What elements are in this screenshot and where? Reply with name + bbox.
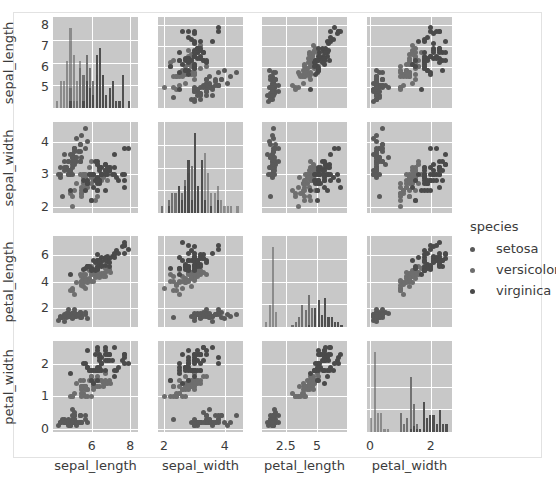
- scatter-point: [91, 381, 96, 386]
- scatter-point: [316, 172, 321, 177]
- scatter-point: [374, 93, 379, 98]
- scatter-point: [83, 188, 88, 193]
- gridline-horizontal: [158, 429, 243, 430]
- scatter-point: [413, 77, 418, 82]
- x-tick-label-petal_width: 2: [411, 438, 451, 453]
- histogram-bar: [275, 312, 277, 327]
- scatter-point: [437, 172, 442, 177]
- scatter-point: [328, 178, 333, 183]
- histogram-bar: [383, 429, 385, 432]
- histogram-bar: [340, 325, 342, 327]
- x-tick-label-petal_length: 5: [297, 438, 337, 453]
- scatter-point: [95, 188, 100, 193]
- scatter-point: [168, 266, 173, 271]
- panel-sepal_length-vs-petal_width: [367, 17, 452, 108]
- gridline-horizontal: [53, 207, 138, 208]
- scatter-point: [268, 194, 273, 199]
- scatter-point: [270, 162, 275, 167]
- histogram-bar: [265, 322, 267, 327]
- scatter-point: [180, 352, 185, 357]
- scatter-point: [60, 194, 65, 199]
- histogram-bar: [314, 308, 316, 327]
- scatter-point: [443, 162, 448, 167]
- scatter-point: [66, 172, 71, 177]
- scatter-point: [332, 25, 337, 30]
- histogram-bar: [191, 200, 193, 213]
- histogram-bar: [181, 200, 183, 213]
- gridline-horizontal: [367, 364, 452, 365]
- scatter-point: [422, 172, 427, 177]
- scatter-point: [177, 365, 182, 370]
- scatter-point: [271, 79, 276, 84]
- scatter-point: [306, 60, 311, 65]
- scatter-point: [204, 374, 209, 379]
- scatter-point: [270, 93, 275, 98]
- scatter-point: [416, 39, 421, 44]
- histogram-bar: [374, 352, 376, 432]
- scatter-point: [186, 251, 191, 256]
- histogram-bar: [400, 413, 402, 432]
- scatter-point: [186, 258, 191, 263]
- histogram-bar: [334, 322, 336, 327]
- scatter-point: [425, 35, 430, 40]
- scatter-point: [443, 39, 448, 44]
- gridline-vertical: [130, 122, 131, 213]
- scatter-point: [204, 352, 209, 357]
- scatter-point: [74, 136, 79, 141]
- scatter-point: [62, 152, 67, 157]
- histogram-bar: [324, 298, 326, 327]
- gridline-horizontal: [53, 429, 138, 430]
- scatter-point: [374, 79, 379, 84]
- scatter-point: [332, 146, 337, 151]
- scatter-point: [437, 254, 442, 259]
- scatter-point: [315, 188, 320, 193]
- histogram-bar: [445, 424, 447, 432]
- legend-marker-icon: [470, 289, 475, 294]
- scatter-point: [326, 352, 331, 357]
- scatter-point: [210, 345, 215, 350]
- scatter-point: [93, 352, 98, 357]
- scatter-point: [85, 348, 90, 353]
- scatter-point: [428, 247, 433, 252]
- scatter-point: [62, 314, 67, 319]
- x-tick-label-sepal_width: 4: [205, 438, 245, 453]
- scatter-point: [380, 83, 385, 88]
- pairplot-figure: 567823424601268242.5502 sepal_lengthsepa…: [0, 0, 556, 480]
- histogram-bar: [109, 88, 111, 108]
- scatter-point: [192, 352, 197, 357]
- scatter-point: [70, 162, 75, 167]
- scatter-point: [410, 258, 415, 263]
- scatter-point: [374, 162, 379, 167]
- scatter-point: [95, 194, 100, 199]
- histogram-bar: [204, 200, 206, 213]
- scatter-point: [210, 39, 215, 44]
- scatter-point: [374, 133, 379, 138]
- scatter-point: [122, 172, 127, 177]
- scatter-point: [386, 155, 391, 160]
- scatter-point: [377, 155, 382, 160]
- gridline-horizontal: [367, 207, 452, 208]
- scatter-point: [177, 292, 182, 297]
- legend-label: versicolor: [496, 262, 556, 277]
- scatter-point: [112, 172, 117, 177]
- scatter-point: [219, 77, 224, 82]
- scatter-point: [70, 407, 75, 412]
- histogram-bar: [73, 55, 75, 108]
- histogram-bar: [419, 429, 421, 432]
- scatter-point: [321, 368, 326, 373]
- panel-petal_width-vs-petal_length: [262, 341, 347, 432]
- scatter-point: [401, 292, 406, 297]
- scatter-point: [171, 95, 176, 100]
- scatter-point: [222, 68, 227, 73]
- scatter-point: [122, 178, 127, 183]
- scatter-point: [234, 312, 239, 317]
- scatter-point: [338, 352, 343, 357]
- scatter-point: [180, 29, 185, 34]
- histogram-bar: [174, 193, 176, 213]
- scatter-point: [398, 204, 403, 209]
- scatter-point: [416, 159, 421, 164]
- histogram-bar: [63, 81, 65, 108]
- histogram-bar: [178, 186, 180, 213]
- gridline-vertical: [225, 17, 226, 108]
- scatter-point: [192, 251, 197, 256]
